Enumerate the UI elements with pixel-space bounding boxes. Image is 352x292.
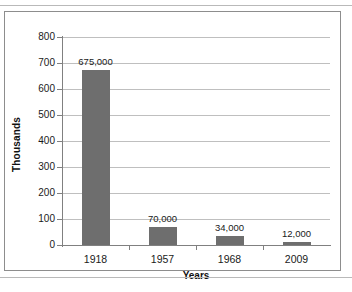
y-axis-tick-mark <box>57 245 62 246</box>
gridline <box>62 37 330 38</box>
y-axis-tick-label: 700 <box>5 58 55 68</box>
y-axis-tick-label-text: 800 <box>11 32 55 42</box>
x-axis-tick-label-1957: 1957 <box>133 253 193 265</box>
bar-1957 <box>149 227 177 245</box>
y-axis-tick-mark <box>57 141 62 142</box>
bar-value-label-2009: 12,000 <box>267 229 327 239</box>
y-axis-tick-label: 0 <box>5 240 55 250</box>
y-axis-tick-label-text: 600 <box>11 84 55 94</box>
x-axis-tick-label-2009: 2009 <box>267 253 327 265</box>
y-axis-tick-mark <box>57 115 62 116</box>
x-axis-tick-label-1968: 1968 <box>200 253 260 265</box>
chart-figure-frame: Thousands Years 800700600500400300200100… <box>4 11 341 271</box>
y-axis-tick-mark <box>57 193 62 194</box>
y-axis-tick-mark <box>57 167 62 168</box>
page-rule-top <box>0 5 352 6</box>
x-axis-title: Years <box>62 270 330 281</box>
y-axis-tick-label-text: 700 <box>11 58 55 68</box>
y-axis-tick-label-text: 0 <box>11 240 55 250</box>
x-axis-tick-mark <box>263 245 264 250</box>
y-axis-tick-mark <box>57 63 62 64</box>
y-axis-tick-label: 300 <box>5 162 55 172</box>
y-axis-tick-label-text: 300 <box>11 162 55 172</box>
y-axis-tick-label-text: 200 <box>11 188 55 198</box>
x-axis-tick-label-1918: 1918 <box>66 253 126 265</box>
y-axis-tick-label: 600 <box>5 84 55 94</box>
bar-value-label-1968: 34,000 <box>200 223 260 233</box>
y-axis-tick-label: 400 <box>5 136 55 146</box>
y-axis-line <box>62 36 63 247</box>
y-axis-tick-mark <box>57 37 62 38</box>
y-axis-tick-label: 100 <box>5 214 55 224</box>
bar-1968 <box>216 236 244 245</box>
y-axis-tick-label-text: 400 <box>11 136 55 146</box>
bar-value-label-1957: 70,000 <box>133 214 193 224</box>
y-axis-tick-label: 500 <box>5 110 55 120</box>
y-axis-tick-label-text: 500 <box>11 110 55 120</box>
y-axis-tick-mark <box>57 89 62 90</box>
y-axis-tick-label: 200 <box>5 188 55 198</box>
x-axis-tick-mark <box>129 245 130 250</box>
bar-value-label-1918: 675,000 <box>66 57 126 67</box>
y-axis-tick-label: 800 <box>5 32 55 42</box>
bar-2009 <box>283 242 311 245</box>
y-axis-tick-label-text: 100 <box>11 214 55 224</box>
x-axis-tick-mark <box>196 245 197 250</box>
y-axis-tick-mark <box>57 219 62 220</box>
page-rule-bottom <box>0 277 352 278</box>
bar-1918 <box>82 70 110 246</box>
